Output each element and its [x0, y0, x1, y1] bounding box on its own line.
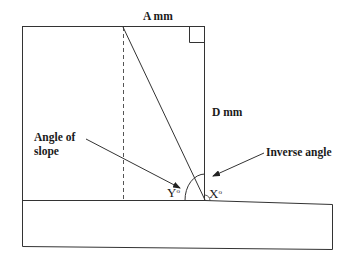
inverse-angle-label: Inverse angle — [266, 146, 331, 159]
ground-slab — [23, 201, 333, 250]
angle-of-slope-label-line2: slope — [34, 145, 59, 158]
angle-arc — [185, 174, 205, 201]
slope-diagram — [0, 0, 355, 260]
degree-symbol: o — [218, 188, 222, 196]
top-dimension-label: A mm — [143, 10, 173, 23]
slope-diagonal-line — [123, 27, 205, 200]
inverse-angle-arrow — [213, 153, 264, 176]
block-rectangle — [23, 27, 205, 201]
angle-of-slope-label-line1: Angle of — [34, 131, 75, 144]
angle-of-slope-arrow — [86, 139, 180, 188]
angle-x-letter: X — [209, 186, 218, 201]
angle-x-label: Xo — [209, 187, 222, 200]
side-dimension-label: D mm — [212, 106, 242, 119]
degree-symbol: o — [176, 187, 180, 195]
right-angle-marker — [190, 27, 205, 43]
angle-y-label: Yo — [167, 186, 180, 199]
angle-y-letter: Y — [167, 185, 176, 200]
